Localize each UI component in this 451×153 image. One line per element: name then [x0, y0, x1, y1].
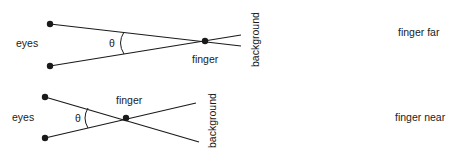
caption-finger-near: finger near	[395, 111, 445, 123]
top-eyes-label: eyes	[16, 37, 38, 49]
top-diagram: eyes θ finger background	[16, 12, 261, 69]
top-sightline-upper	[50, 24, 241, 46]
bottom-background-label: background	[206, 93, 218, 148]
bottom-eyes-label: eyes	[12, 111, 34, 123]
top-finger-label: finger	[192, 53, 219, 65]
top-eye-lower	[47, 63, 53, 69]
bottom-angle-arc	[85, 108, 88, 128]
bottom-finger-point	[123, 115, 129, 121]
top-angle-arc	[121, 32, 125, 54]
bottom-eye-lower	[42, 135, 48, 141]
parallax-diagram: eyes θ finger background eyes θ finger b…	[0, 0, 451, 153]
top-eye-upper	[47, 21, 53, 27]
bottom-eye-upper	[42, 94, 48, 100]
top-background-label: background	[249, 12, 261, 67]
top-theta-label: θ	[109, 37, 115, 49]
top-finger-point	[202, 38, 208, 44]
bottom-finger-label: finger	[116, 94, 143, 106]
bottom-sightline-lower	[45, 103, 196, 138]
bottom-theta-label: θ	[75, 112, 81, 124]
caption-finger-far: finger far	[398, 26, 439, 38]
bottom-diagram: eyes θ finger background	[12, 93, 218, 148]
